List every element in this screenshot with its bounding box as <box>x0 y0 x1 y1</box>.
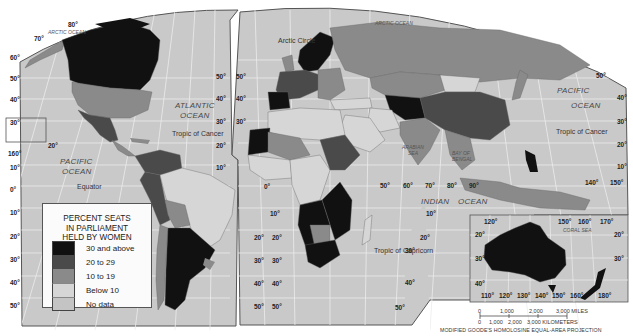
tick-lat-40-seam-r: 40° <box>236 95 246 102</box>
country-turkey <box>330 98 372 110</box>
label-arabian-sea-2: SEA <box>408 150 419 156</box>
country-mongolia <box>440 75 480 92</box>
tick-lat-10s-west: 10° <box>10 209 20 216</box>
tick-au-lon-110: 110° <box>481 292 494 299</box>
tick-lon-160-west: 160° <box>8 150 22 157</box>
tick-au-lon-120: 120° <box>484 218 498 225</box>
tick-lat-50s-west: 50° <box>10 302 20 309</box>
tick-lat-10-seam-l: 10° <box>216 164 226 171</box>
tick-au-lon-160-top: 160° <box>578 218 592 225</box>
eastern-lobe <box>230 8 633 330</box>
legend-item-10-19: 10 to 19 <box>52 269 115 283</box>
tick-lat-40s-seam-l: 40° <box>254 280 264 287</box>
tick-lat-80-west: 80° <box>68 21 78 28</box>
scale-miles-2000: 2,000 <box>529 308 543 314</box>
scale-km-3000: 3,000 KILOMETERS <box>527 319 578 325</box>
tick-lat-40s-seam-r: 40° <box>272 280 282 287</box>
tick-lon-90: 90° <box>469 182 479 189</box>
tick-lat-0-west: 0° <box>10 186 17 193</box>
tick-lat-20-seam-l: 20° <box>216 142 226 149</box>
label-pacific-ocean-west: PACIFIC <box>60 157 92 166</box>
legend-item-30-above: 30 and above <box>52 241 135 255</box>
label-bay-of-bengal-2: BENGAL <box>452 156 473 162</box>
tick-lat-20s-indian: 20° <box>420 234 430 241</box>
tick-lat-30-seam-r: 30° <box>236 118 246 125</box>
tick-lat-20s-seam-r: 20° <box>272 234 282 241</box>
tick-lat-10s-indian: 10° <box>426 210 436 217</box>
legend-label: 30 and above <box>86 244 135 253</box>
tick-lat-0-seam: 0° <box>264 183 271 190</box>
label-indian-ocean-2: OCEAN <box>458 197 487 206</box>
label-arctic-circle: Arctic Circle <box>278 37 315 44</box>
tick-au-lon-150: 150° <box>552 292 566 299</box>
tick-lat-20s-seam-l: 20° <box>254 234 264 241</box>
tick-lat-40s-indian: 40° <box>405 279 415 286</box>
swatch-below-10 <box>52 283 75 297</box>
scale-km-2000: 2,000 <box>508 319 522 325</box>
tick-au-lon-140: 140° <box>535 292 549 299</box>
tick-lat-20s-west: 20° <box>10 233 20 240</box>
tick-au-lon-180: 180° <box>598 292 612 299</box>
swatch-30-above <box>52 241 75 255</box>
tick-au-lon-130: 130° <box>517 292 531 299</box>
tick-lat-40-seam-l: 40° <box>216 95 226 102</box>
tick-lat-10-west: 10° <box>10 164 20 171</box>
tick-lat-40s-west: 40° <box>10 279 20 286</box>
label-tropic-of-cancer-west: Tropic of Cancer <box>172 130 224 138</box>
swatch-20-29 <box>52 255 75 269</box>
scale-km-1000: 1,000 <box>489 319 503 325</box>
tick-lat-60-west: 60° <box>10 54 20 61</box>
tick-lat-70-west: 70° <box>34 35 44 42</box>
country-russia <box>330 22 590 82</box>
tick-lon-50: 50° <box>380 182 390 189</box>
legend-title: PERCENT SEATS IN PARLIAMENT HELD BY WOME… <box>43 214 151 243</box>
legend-label: 20 to 29 <box>86 258 115 267</box>
tick-lat-30-east: 30° <box>617 118 627 125</box>
label-pacific-ocean-east-2: OCEAN <box>571 101 600 110</box>
label-atlantic-ocean-2: OCEAN <box>180 111 209 120</box>
tick-lat-20-east: 20° <box>617 141 627 148</box>
tick-au-lat-20-r: 20° <box>614 231 624 238</box>
label-pacific-ocean-east: PACIFIC <box>557 86 589 95</box>
legend-item-20-29: 20 to 29 <box>52 255 115 269</box>
tick-au-lat-30-r: 30° <box>614 255 624 262</box>
tick-au-lon-120-bottom: 120° <box>499 292 513 299</box>
tick-lat-30-seam-l: 30° <box>216 118 226 125</box>
scale-miles-1000: 1,000 <box>500 308 514 314</box>
legend-item-no-data: No data <box>52 297 114 311</box>
tick-lat-30s-seam-r: 30° <box>272 257 282 264</box>
legend-title-line-1: PERCENT SEATS <box>43 214 151 224</box>
label-indian-ocean: INDIAN <box>421 197 449 206</box>
tick-au-lat-40-l: 40° <box>475 280 485 287</box>
tick-lat-50s-indian: 50° <box>395 304 405 311</box>
tick-lat-50s-seam-l: 50° <box>254 303 264 310</box>
tick-lat-10s-seam: 10° <box>270 210 280 217</box>
legend: PERCENT SEATS IN PARLIAMENT HELD BY WOME… <box>42 203 152 308</box>
label-pacific-ocean-west-2: OCEAN <box>62 167 91 176</box>
legend-title-line-2: IN PARLIAMENT <box>43 224 151 234</box>
tick-lat-50-east: 50° <box>596 72 606 79</box>
scale-km-0: 0 <box>478 319 481 325</box>
tick-lon-150: 150° <box>610 179 624 186</box>
swatch-10-19 <box>52 269 75 283</box>
swatch-no-data <box>52 297 75 311</box>
scale-miles-0: 0 <box>478 308 481 314</box>
tick-lat-30s-seam-l: 30° <box>254 257 264 264</box>
tick-lat-30s-west: 30° <box>10 256 20 263</box>
label-tropic-of-capricorn: Tropic of Capricorn <box>374 247 433 255</box>
country-western-sahara-mauritania <box>248 128 270 155</box>
tick-lat-50-seam-r: 50° <box>236 73 246 80</box>
tick-lat-40-west: 40° <box>10 96 20 103</box>
tick-lat-40-east: 40° <box>617 94 627 101</box>
tick-lat-10-east: 10° <box>617 163 627 170</box>
scale-miles-3000: 3,000 MILES <box>556 308 588 314</box>
legend-label: Below 10 <box>86 286 119 295</box>
label-arctic-ocean-west: ARCTIC OCEAN <box>47 29 86 35</box>
tick-lon-140: 140° <box>585 179 599 186</box>
tick-au-lon-150-top: 150° <box>558 218 572 225</box>
tick-lon-80: 80° <box>447 182 457 189</box>
tick-au-lon-170-top: 170° <box>600 218 614 225</box>
legend-item-below-10: Below 10 <box>52 283 119 297</box>
label-tropic-of-cancer-east: Tropic of Cancer <box>556 128 608 136</box>
tick-lon-70: 70° <box>425 182 435 189</box>
